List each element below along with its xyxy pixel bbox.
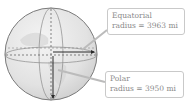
equatorial-radius-label: Equatorial radius = 3963 mi: [107, 8, 185, 35]
polar-radius-label: Polar radius = 3950 mi: [105, 71, 184, 98]
polar-value: radius = 3950 mi: [110, 84, 179, 94]
polar-title: Polar: [110, 74, 179, 84]
equatorial-value: radius = 3963 mi: [112, 21, 180, 31]
equatorial-title: Equatorial: [112, 11, 180, 21]
